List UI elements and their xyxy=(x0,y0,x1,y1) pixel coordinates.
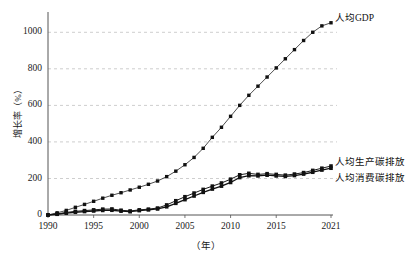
data-point-marker xyxy=(183,163,186,166)
y-tick-label: 800 xyxy=(2,63,42,73)
data-point-marker xyxy=(165,205,169,209)
data-point-marker xyxy=(137,209,141,213)
data-point-marker xyxy=(275,66,278,69)
y-tick-label: 600 xyxy=(2,99,42,109)
data-point-marker xyxy=(92,209,96,213)
series-line-1 xyxy=(48,166,331,215)
x-tick-label: 1995 xyxy=(74,221,114,231)
data-point-marker xyxy=(192,156,195,159)
data-point-marker xyxy=(101,196,104,199)
data-point-marker xyxy=(138,186,141,189)
data-point-marker xyxy=(229,181,233,185)
data-point-marker xyxy=(183,198,187,202)
y-tick-label: 400 xyxy=(2,136,42,146)
series-line-0 xyxy=(48,23,331,215)
y-tick-label: 0 xyxy=(2,209,42,219)
y-tick-label: 200 xyxy=(2,173,42,183)
data-point-marker xyxy=(83,203,86,206)
data-point-marker xyxy=(256,84,259,87)
data-point-marker xyxy=(284,57,287,60)
data-point-marker xyxy=(293,48,296,51)
x-tick-label: 2010 xyxy=(211,221,251,231)
data-point-marker xyxy=(74,206,77,209)
data-point-marker xyxy=(128,188,131,191)
x-tick-label: 2015 xyxy=(256,221,296,231)
data-point-marker xyxy=(311,31,314,34)
data-point-marker xyxy=(119,209,123,213)
data-point-marker xyxy=(256,174,260,178)
data-point-marker xyxy=(265,173,269,177)
data-point-marker xyxy=(74,210,78,214)
data-point-marker xyxy=(265,75,268,78)
data-point-marker xyxy=(229,115,232,118)
data-point-marker xyxy=(110,194,113,197)
data-point-marker xyxy=(302,172,306,176)
data-point-marker xyxy=(293,174,297,178)
data-point-marker xyxy=(101,209,105,213)
data-point-marker xyxy=(156,207,160,211)
data-point-marker xyxy=(64,211,68,215)
series-label-production: 人均生产碳排放 xyxy=(335,154,405,168)
data-point-marker xyxy=(156,179,159,182)
data-point-marker xyxy=(201,191,205,195)
data-point-marker xyxy=(220,181,224,185)
data-point-marker xyxy=(274,174,278,178)
data-point-marker xyxy=(320,24,323,27)
data-point-marker xyxy=(128,210,132,214)
data-point-marker xyxy=(211,136,214,139)
data-point-marker xyxy=(247,174,251,178)
data-point-marker xyxy=(83,210,87,214)
data-point-marker xyxy=(284,175,288,179)
data-point-marker xyxy=(211,187,215,191)
data-point-marker xyxy=(229,177,233,181)
data-point-marker xyxy=(320,168,324,172)
x-tick-label: 2021 xyxy=(311,221,351,231)
data-point-marker xyxy=(92,200,95,203)
data-point-marker xyxy=(174,169,177,172)
data-point-marker xyxy=(55,212,59,216)
data-point-marker xyxy=(220,184,224,188)
data-point-marker xyxy=(238,176,242,180)
data-point-marker xyxy=(147,183,150,186)
chart-figure: 增长率（%） （年） 02004006008001000 19901995200… xyxy=(0,0,412,261)
data-point-marker xyxy=(247,94,250,97)
data-point-marker xyxy=(174,202,178,206)
y-tick-label: 1000 xyxy=(2,26,42,36)
data-point-marker xyxy=(147,208,151,212)
data-point-marker xyxy=(201,147,204,150)
data-point-marker xyxy=(302,39,305,42)
series-label-gdp: 人均GDP xyxy=(335,10,374,24)
data-point-marker xyxy=(238,104,241,107)
y-axis-label: 增长率（%） xyxy=(11,57,24,167)
data-point-marker xyxy=(165,175,168,178)
data-point-marker xyxy=(119,191,122,194)
x-tick-label: 2005 xyxy=(165,221,205,231)
series-label-consumption: 人均消费碳排放 xyxy=(335,170,405,184)
data-point-marker xyxy=(192,194,196,198)
data-point-marker xyxy=(110,208,114,212)
data-point-marker xyxy=(329,166,333,170)
data-point-marker xyxy=(329,21,332,24)
x-tick-label: 1990 xyxy=(28,221,68,231)
data-point-marker xyxy=(46,213,50,217)
x-tick-label: 2000 xyxy=(119,221,159,231)
data-point-marker xyxy=(311,170,315,174)
x-axis-label: （年） xyxy=(0,238,412,252)
data-point-marker xyxy=(220,126,223,129)
